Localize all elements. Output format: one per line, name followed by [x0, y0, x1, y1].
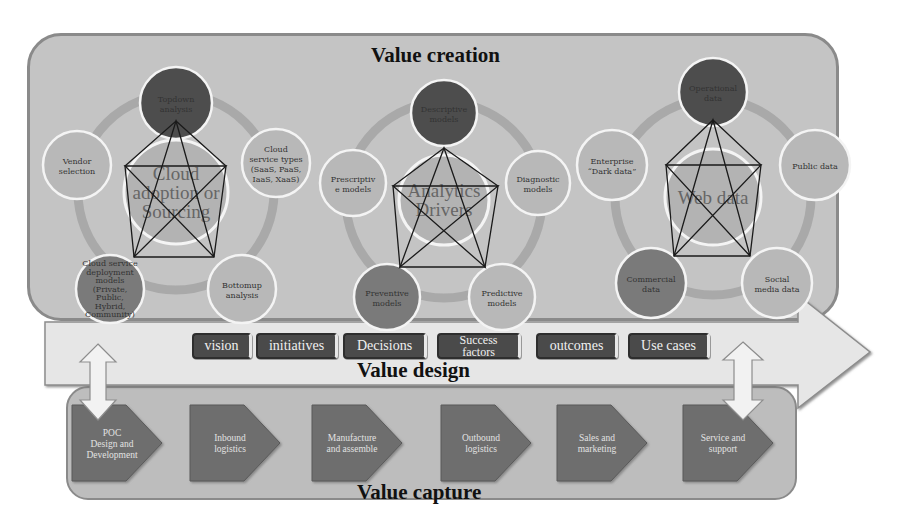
cluster-1: Cloudadoption orSourcingTopdownanalysisC… — [43, 67, 310, 323]
capture-step-1: POCDesign andDevelopment — [72, 405, 162, 481]
chip-label: Use cases — [641, 340, 696, 352]
capture-step-5: Sales andmarketing — [557, 405, 647, 481]
value-creation-title: Value creation — [371, 43, 500, 68]
chip-label: Decisions — [357, 340, 412, 352]
design-chip-initiatives: initiatives — [256, 333, 338, 359]
node-label: Enterprise“Dark data” — [588, 157, 636, 176]
chip-label: outcomes — [550, 340, 604, 352]
capture-step-6: Service andsupport — [683, 405, 773, 481]
node-label: Vendorselection — [59, 157, 95, 176]
step-label: Sales andmarketing — [578, 433, 617, 454]
design-chip-decisions: Decisions — [343, 333, 427, 359]
value-design-title: Value design — [357, 358, 470, 383]
cluster-3: Web dataOperationaldataPublic dataSocial… — [577, 58, 850, 318]
cluster-2: AnalyticsDriversDescriptivemodelsDiagnos… — [320, 80, 570, 330]
capture-step-3: Manufactureand assemble — [312, 405, 402, 481]
chip-label: initiatives — [269, 340, 324, 352]
value-capture-title: Value capture — [357, 480, 481, 505]
step-label: Manufactureand assemble — [327, 433, 378, 454]
node-label: Bottomupanalysis — [222, 281, 262, 300]
design-chip-outcomes: outcomes — [536, 333, 618, 359]
step-label: Outboundlogistics — [462, 433, 500, 454]
diagram-canvas: Cloudadoption orSourcingTopdownanalysisC… — [0, 0, 904, 530]
node-label: Topdownanalysis — [158, 95, 195, 114]
chip-label: Success factors — [447, 334, 510, 358]
design-chip-success-factors: Success factors — [437, 333, 521, 359]
capture-step-4: Outboundlogistics — [441, 405, 531, 481]
design-chip-vision: vision — [192, 333, 252, 359]
capture-step-2: Inboundlogistics — [190, 405, 280, 481]
node-label: Prescriptive models — [331, 175, 376, 194]
design-chip-use-cases: Use cases — [628, 333, 710, 359]
step-label: Inboundlogistics — [214, 433, 246, 454]
chip-label: vision — [204, 340, 238, 352]
node-label: Public data — [792, 162, 838, 171]
